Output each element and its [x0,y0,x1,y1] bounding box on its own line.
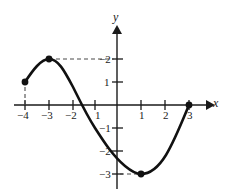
y-tick-label--2: −2 [99,146,111,157]
x-tick-label--2: −2 [65,110,77,121]
x-tick-label-1: 1 [139,110,145,121]
x-tick-label--4: −4 [17,110,29,121]
point-local-minimum [138,171,145,178]
x-tick-label-2: 2 [163,110,169,121]
x-axis-label: x [213,97,218,109]
y-tick-label-1: 1 [104,77,110,88]
y-tick-label--3: −3 [99,169,111,180]
point-local-maximum [46,56,53,63]
x-tick-label-3: 3 [187,110,193,121]
y-tick-label-2: −2 [99,54,111,65]
coordinate-plane [0,0,227,196]
y-axis-label: y [113,11,118,23]
y-tick-label--1: −1 [99,123,111,134]
y-axis-arrowhead [112,25,122,34]
point-right-endpoint [186,102,193,109]
graph-figure: x y −4 −3 −2 1 1 2 3 −2 1 −1 −2 −3 [0,0,227,196]
x-tick-label--3: −3 [41,110,53,121]
point-left-endpoint [22,79,29,86]
x-tick-label--1: 1 [95,110,101,121]
